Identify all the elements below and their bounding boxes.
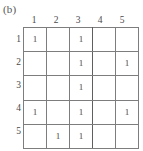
matrix-cell-r1c4: [93, 28, 116, 52]
matrix-cell-r3c3: 1: [70, 76, 93, 100]
matrix-cell-r2c4: [93, 52, 116, 76]
column-header-5: 5: [111, 14, 133, 26]
matrix-cell-r5c5: [116, 124, 139, 148]
table-row: 1 1: [24, 28, 139, 52]
row-header-3: 3: [9, 73, 21, 96]
matrix-cell-r1c3: 1: [70, 28, 93, 52]
table-row: 1 1: [24, 52, 139, 76]
figure-caption: (b): [3, 3, 16, 15]
matrix-cell-r5c1: [24, 124, 47, 148]
matrix-cell-r5c3: 1: [70, 124, 93, 148]
matrix-cell-r1c1: 1: [24, 28, 47, 52]
matrix-cell-r3c2: [47, 76, 70, 100]
matrix-cell-r3c1: [24, 76, 47, 100]
matrix-cell-r4c1: 1: [24, 100, 47, 124]
matrix-cell-r1c2: [47, 28, 70, 52]
row-header-4: 4: [9, 97, 21, 120]
table-row: 1 1 1: [24, 100, 139, 124]
matrix-cell-r1c5: [116, 28, 139, 52]
matrix-cell-r4c4: [93, 100, 116, 124]
column-header-2: 2: [45, 14, 67, 26]
matrix-cell-r5c4: [93, 124, 116, 148]
column-header-4: 4: [89, 14, 111, 26]
matrix-cell-r3c4: [93, 76, 116, 100]
column-header-3: 3: [67, 14, 89, 26]
row-header-5: 5: [9, 120, 21, 143]
row-header-1: 1: [9, 27, 21, 50]
column-header-1: 1: [23, 14, 45, 26]
row-header-column: 1 2 3 4 5: [9, 27, 21, 143]
column-header-row: 1 2 3 4 5: [23, 14, 133, 26]
matrix-table: 1 1 1 1 1: [23, 27, 139, 149]
matrix-cell-r2c2: [47, 52, 70, 76]
matrix-grid: 1 1 1 1 1: [23, 27, 133, 143]
matrix-figure: (b) 1 2 3 4 5 1 2 3 4 5 1 1: [0, 0, 143, 151]
matrix-cell-r3c5: [116, 76, 139, 100]
matrix-cell-r4c5: 1: [116, 100, 139, 124]
table-row: 1 1: [24, 124, 139, 148]
row-header-2: 2: [9, 50, 21, 73]
matrix-cell-r4c2: [47, 100, 70, 124]
matrix-cell-r2c1: [24, 52, 47, 76]
matrix-cell-r4c3: 1: [70, 100, 93, 124]
matrix-cell-r2c3: 1: [70, 52, 93, 76]
table-row: 1: [24, 76, 139, 100]
matrix-cell-r5c2: 1: [47, 124, 70, 148]
matrix-cell-r2c5: 1: [116, 52, 139, 76]
